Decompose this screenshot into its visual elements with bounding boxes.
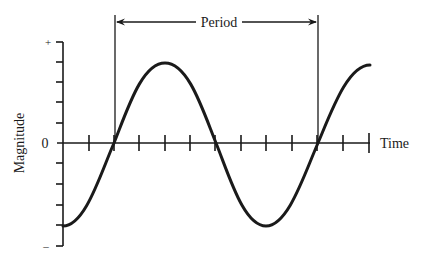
period-label: Period — [201, 15, 238, 30]
y-axis — [56, 42, 63, 246]
y-bottom-label: – — [42, 240, 49, 252]
x-axis-label: Time — [380, 136, 409, 151]
waveform-curve — [63, 63, 370, 226]
sine-period-diagram: Period Time Magnitude + 0 – — [0, 0, 422, 260]
y-top-label: + — [45, 36, 51, 48]
period-bracket — [115, 15, 318, 143]
y-zero-label: 0 — [42, 136, 49, 151]
y-axis-label: Magnitude — [12, 113, 27, 174]
